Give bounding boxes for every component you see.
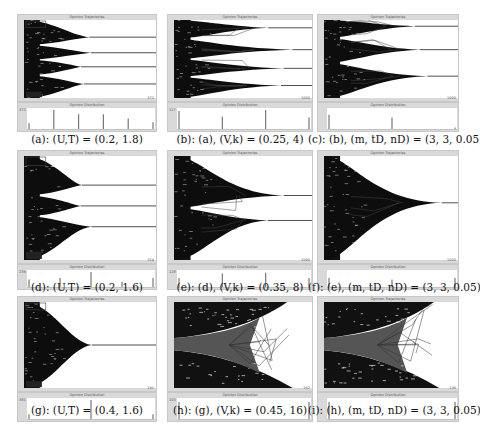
caption-g: (g): (U,T) = (0.4, 1.6)	[7, 404, 167, 416]
caption-a: (a): (U,T) = (0.2, 1.8)	[7, 133, 167, 145]
caption-f: (f): (e), (m, tD, nD) = (3, 3, 0.05)	[308, 281, 468, 293]
caption-b: (b): (a), (V,k) = (0.25, 4)	[160, 133, 320, 145]
trajectory-plot-h: Opinion Trajectories162	[167, 296, 313, 392]
caption-i: (i): (h), (m, tD, nD) = (3, 3, 0.05)	[308, 404, 468, 416]
x-axis-max-label: 191	[147, 386, 154, 391]
distribution-max-label: 103	[169, 398, 176, 402]
trajectory-plot-d: Opinion Trajectories314	[17, 150, 157, 264]
distribution-max-label: 128	[169, 270, 176, 274]
trajectory-plot-c: Opinion Trajectories1000	[317, 14, 459, 102]
x-axis-max-label: 162	[303, 386, 310, 391]
caption-h: (h): (g), (V,k) = (0.45, 16)	[160, 404, 320, 416]
x-axis-max-label: 136	[449, 386, 456, 391]
distribution-max-label: 239	[19, 270, 26, 274]
x-axis-max-label: 372	[147, 96, 154, 101]
trajectory-plot-f: Opinion Trajectories1000	[317, 150, 459, 264]
x-axis-max-label: 1000	[447, 258, 456, 263]
x-axis-max-label: 1000	[301, 96, 310, 101]
x-axis-max-label: 1000	[447, 96, 456, 101]
distribution-plot-b: Opinion Distribution127	[167, 102, 313, 132]
distribution-max-label: 381	[19, 398, 26, 402]
x-axis-max-label: 314	[147, 258, 154, 263]
trajectory-plot-i: Opinion Trajectories136	[317, 296, 459, 392]
trajectory-plot-a: Opinion Trajectories372	[17, 14, 157, 102]
x-axis-max-label: 1000	[301, 258, 310, 263]
caption-e: (e): (d), (V,k) = (0.35, 8)	[160, 281, 320, 293]
trajectory-plot-g: Opinion Trajectories191	[17, 296, 157, 392]
trajectory-plot-e: Opinion Trajectories1000	[167, 150, 313, 264]
caption-c: (c): (b), (m, tD, nD) = (3, 3, 0.05)	[308, 133, 468, 145]
distribution-max-label: 127	[169, 108, 176, 112]
distribution-plot-a: Opinion Distribution372	[17, 102, 157, 132]
distribution-plot-c: Opinion Distribution	[317, 102, 459, 132]
distribution-max-label: 372	[19, 108, 26, 112]
caption-d: (d): (U,T) = (0.2, 1.6)	[7, 281, 167, 293]
trajectory-plot-b: Opinion Trajectories1000	[167, 14, 313, 102]
